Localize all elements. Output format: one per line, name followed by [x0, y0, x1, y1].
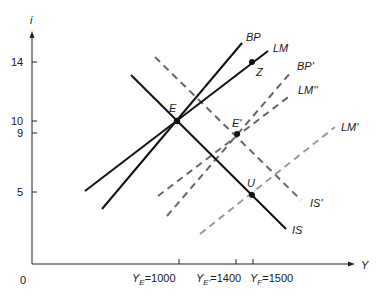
x-tick-label-1000: YE=1000	[132, 272, 176, 287]
point-e	[174, 118, 180, 124]
curve-is-prime	[155, 57, 301, 200]
curve-is	[131, 75, 286, 229]
equilibrium-points: E E' U Z	[169, 59, 264, 198]
y-axis-arrow-icon	[30, 31, 35, 38]
curve-bp	[102, 43, 242, 209]
x-tick-label-1500: YF=1500	[250, 272, 293, 287]
curve-label-bp-prime: BP'	[297, 60, 315, 72]
point-label-e: E	[169, 102, 177, 114]
y-tick-label-10: 10	[11, 115, 23, 127]
curve-label-is-prime: IS'	[310, 197, 323, 209]
y-tick-label-5: 5	[17, 186, 23, 198]
origin-label: 0	[20, 274, 26, 286]
curve-label-is: IS	[292, 224, 303, 236]
point-label-e-prime: E'	[232, 117, 242, 129]
curve-lm-prime	[200, 127, 335, 234]
axes: i Y 0 14 10 9 5 YE=1000 YE'=1400 YF=1500	[11, 14, 369, 287]
curve-bp-prime	[167, 72, 291, 216]
point-u	[249, 192, 255, 198]
curve-label-lm: LM	[273, 42, 289, 54]
point-z	[249, 59, 255, 65]
x-tick-label-1400: YE'=1400	[196, 272, 241, 287]
is-lm-bp-diagram: i Y 0 14 10 9 5 YE=1000 YE'=1400 YF=1500	[0, 0, 383, 299]
curve-label-lm-prime: LM'	[341, 121, 359, 133]
curve-label-bp: BP	[246, 31, 261, 43]
y-tick-label-9: 9	[17, 127, 23, 139]
point-label-z: Z	[255, 66, 264, 78]
y-axis-label: i	[30, 14, 33, 26]
curve-lm-double-prime	[158, 95, 291, 196]
x-axis-label: Y	[361, 259, 369, 271]
curve-label-lm-double-prime: LM''	[298, 84, 318, 96]
y-tick-label-14: 14	[11, 56, 23, 68]
x-axis-arrow-icon	[348, 262, 355, 267]
point-e-prime	[234, 131, 240, 137]
point-label-u: U	[247, 177, 255, 189]
